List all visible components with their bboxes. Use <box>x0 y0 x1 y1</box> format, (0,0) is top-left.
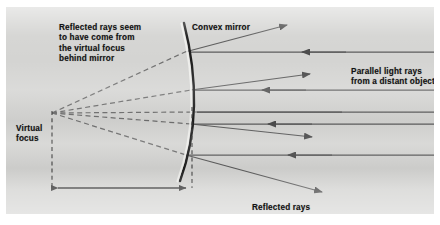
reflected-ray-2 <box>191 74 310 90</box>
virtual-ray-4 <box>52 113 191 124</box>
virtual-rays-group <box>52 52 197 155</box>
label-reflected-rays-seem: Reflected rays seem to have come from th… <box>59 23 141 65</box>
convex-mirror-figure: Reflected rays seem to have come from th… <box>0 0 440 225</box>
reflected-ray-4 <box>191 124 312 137</box>
virtual-ray-3 <box>52 112 197 113</box>
label-parallel-light-rays: Parallel light rays from a distant objec… <box>351 67 434 88</box>
construction-lines-group <box>52 107 192 188</box>
reflected-ray-5 <box>186 155 322 192</box>
reflected-rays-group <box>185 25 342 192</box>
label-virtual-focus: Virtual focus <box>16 124 42 145</box>
label-reflected-rays: Reflected rays <box>252 203 310 213</box>
virtual-ray-5 <box>52 113 186 155</box>
label-convex-mirror: Convex mirror <box>192 23 250 33</box>
virtual-ray-2 <box>52 90 191 113</box>
diagram-canvas: Reflected rays seem to have come from th… <box>6 7 434 214</box>
